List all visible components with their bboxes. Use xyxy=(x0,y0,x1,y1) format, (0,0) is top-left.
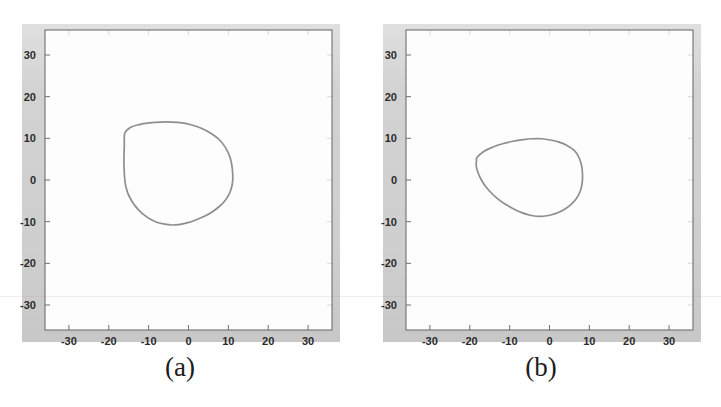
svg-text:10: 10 xyxy=(385,132,397,144)
svg-text:-10: -10 xyxy=(502,335,518,347)
svg-text:20: 20 xyxy=(24,91,36,103)
svg-text:-20: -20 xyxy=(381,257,397,269)
contour-curve xyxy=(476,139,582,217)
subcaption-b: (b) xyxy=(361,352,721,383)
plot-panel-a: -30-20-100102030-30-20-100102030 (a) xyxy=(0,0,360,407)
plot-svg-b: -30-20-100102030-30-20-100102030 xyxy=(361,0,721,407)
scan-artifact-line xyxy=(0,296,721,297)
svg-text:20: 20 xyxy=(385,91,397,103)
svg-text:-10: -10 xyxy=(141,335,157,347)
svg-text:-30: -30 xyxy=(381,299,397,311)
contour-curve xyxy=(124,122,233,225)
svg-text:0: 0 xyxy=(30,174,36,186)
plot-svg-a: -30-20-100102030-30-20-100102030 xyxy=(0,0,360,407)
subcaption-a: (a) xyxy=(0,352,360,383)
svg-text:0: 0 xyxy=(185,335,191,347)
figure-container: -30-20-100102030-30-20-100102030 (a) -30… xyxy=(0,0,721,407)
svg-text:-20: -20 xyxy=(20,257,36,269)
svg-text:-20: -20 xyxy=(101,335,117,347)
svg-text:20: 20 xyxy=(623,335,635,347)
svg-text:-10: -10 xyxy=(20,216,36,228)
plot-panel-b: -30-20-100102030-30-20-100102030 (b) xyxy=(361,0,721,407)
svg-text:0: 0 xyxy=(391,174,397,186)
svg-text:30: 30 xyxy=(24,49,36,61)
svg-text:30: 30 xyxy=(385,49,397,61)
svg-text:10: 10 xyxy=(583,335,595,347)
svg-text:30: 30 xyxy=(302,335,314,347)
svg-text:20: 20 xyxy=(262,335,274,347)
svg-text:-10: -10 xyxy=(381,216,397,228)
svg-text:-20: -20 xyxy=(462,335,478,347)
svg-text:-30: -30 xyxy=(20,299,36,311)
svg-text:10: 10 xyxy=(222,335,234,347)
svg-text:-30: -30 xyxy=(61,335,77,347)
svg-text:0: 0 xyxy=(546,335,552,347)
svg-text:30: 30 xyxy=(663,335,675,347)
svg-text:-30: -30 xyxy=(422,335,438,347)
svg-text:10: 10 xyxy=(24,132,36,144)
